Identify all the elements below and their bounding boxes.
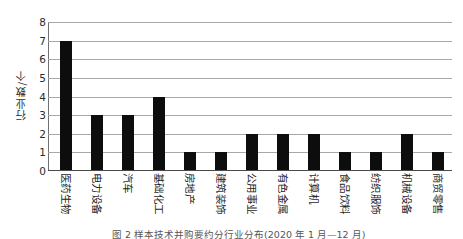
bar xyxy=(432,152,444,171)
y-tick-label: 0 xyxy=(30,166,46,177)
x-tick-label: 汽车 xyxy=(121,173,134,229)
x-tick-label: 有色金属 xyxy=(276,173,289,229)
x-tick-label: 纺织服饰 xyxy=(369,173,382,229)
x-tick-label: 建筑装饰 xyxy=(214,173,227,229)
x-tick-label: 计算机 xyxy=(307,173,320,229)
y-tick-label: 7 xyxy=(30,35,46,46)
x-tick-label: 商贸零售 xyxy=(431,173,444,229)
bar xyxy=(339,152,351,171)
bar-series xyxy=(48,22,452,171)
x-tick-label: 电力设备 xyxy=(90,173,103,229)
y-tick-label: 5 xyxy=(30,73,46,84)
x-tick-label: 公用事业 xyxy=(245,173,258,229)
x-tick-label: 基础化工 xyxy=(152,173,165,229)
x-tick-label: 机械设备 xyxy=(400,173,413,229)
bar xyxy=(184,152,196,171)
y-tick-label: 8 xyxy=(30,17,46,28)
x-tick-label: 房地产 xyxy=(183,173,196,229)
bar xyxy=(215,152,227,171)
bar xyxy=(277,134,289,171)
y-tick-label: 6 xyxy=(30,54,46,65)
figure-caption: 图 2 样本技术并购要约分行业分布(2020 年 1 月—12 月) xyxy=(112,229,412,239)
plot-area xyxy=(48,22,452,171)
x-axis-line xyxy=(48,170,452,172)
y-tick-label: 1 xyxy=(30,147,46,158)
y-tick-label: 4 xyxy=(30,91,46,102)
x-tick-label: 医药生物 xyxy=(59,173,72,229)
bar xyxy=(370,152,382,171)
x-tick-label: 食品饮料 xyxy=(338,173,351,229)
bar xyxy=(246,134,258,171)
bar-chart-figure: 行业数/个 012345678 医药生物电力设备汽车基础化工房地产建筑装饰公用事… xyxy=(0,0,463,239)
y-axis-title: 行业数/个 xyxy=(14,45,30,145)
bar xyxy=(60,41,72,171)
bar xyxy=(122,115,134,171)
x-axis-tick-labels: 医药生物电力设备汽车基础化工房地产建筑装饰公用事业有色金属计算机食品饮料纺织服饰… xyxy=(48,173,452,229)
bar xyxy=(308,134,320,171)
y-axis-tick-labels: 012345678 xyxy=(30,15,46,178)
y-tick-label: 2 xyxy=(30,129,46,140)
bar xyxy=(91,115,103,171)
bar xyxy=(153,97,165,172)
bar xyxy=(401,134,413,171)
y-tick-label: 3 xyxy=(30,110,46,121)
